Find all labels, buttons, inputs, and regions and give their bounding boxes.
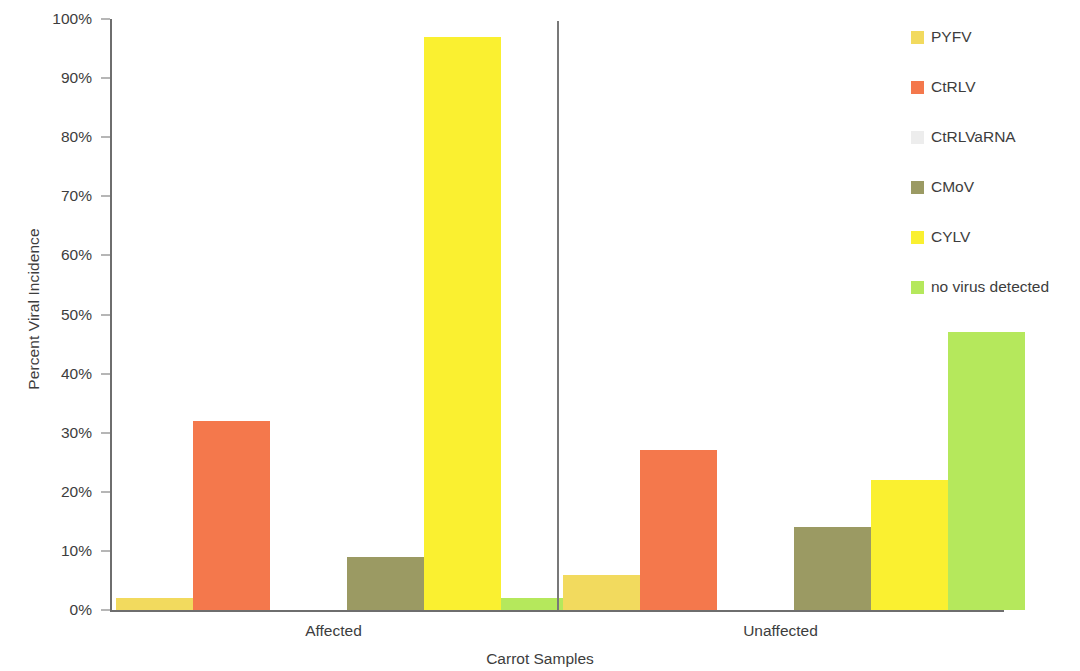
legend-swatch-icon (911, 81, 924, 94)
y-axis-tick-label: 10% (0, 542, 92, 560)
y-axis-tick-label: 0% (0, 601, 92, 619)
x-axis-title: Carrot Samples (0, 650, 1080, 668)
legend-label: CtRLVaRNA (931, 129, 1016, 145)
y-axis-tick-mark (101, 491, 110, 492)
legend-label: CMoV (931, 179, 974, 195)
bar (563, 575, 640, 610)
bar (424, 37, 501, 610)
y-axis-tick-label: 100% (0, 10, 92, 28)
legend-swatch-icon (911, 31, 924, 44)
bar (116, 598, 193, 610)
plot-area (110, 19, 1004, 610)
y-axis-tick-mark (101, 19, 110, 20)
bar (193, 421, 270, 610)
legend-item[interactable]: CtRLVaRNA (911, 128, 1016, 146)
group-divider (557, 21, 559, 610)
y-axis-tick-mark (101, 610, 110, 611)
legend-label: PYFV (931, 29, 971, 45)
y-axis-tick-label: 80% (0, 128, 92, 146)
bar-chart: Percent Viral Incidence 0%10%20%30%40%50… (0, 0, 1080, 671)
legend-label: CYLV (931, 229, 970, 245)
y-axis-tick-label: 60% (0, 246, 92, 264)
y-axis-tick-mark (101, 373, 110, 374)
x-axis-line (110, 610, 1004, 612)
y-axis-tick-label: 40% (0, 365, 92, 383)
y-axis-tick-label: 70% (0, 187, 92, 205)
legend-swatch-icon (911, 181, 924, 194)
legend-item[interactable]: no virus detected (911, 278, 1049, 296)
bar (347, 557, 424, 610)
y-axis-tick-mark (101, 78, 110, 79)
legend-swatch-icon (911, 231, 924, 244)
legend-item[interactable]: CMoV (911, 178, 974, 196)
y-axis-tick-mark (101, 314, 110, 315)
y-axis-tick-mark (101, 255, 110, 256)
y-axis-tick-label: 90% (0, 69, 92, 87)
y-axis-tick-label: 30% (0, 424, 92, 442)
bar (948, 332, 1025, 610)
legend-item[interactable]: CYLV (911, 228, 970, 246)
bar (640, 450, 717, 610)
y-axis-tick-mark (101, 550, 110, 551)
y-axis-tick-label: 50% (0, 306, 92, 324)
bar (871, 480, 948, 610)
y-axis-tick-mark (101, 137, 110, 138)
legend-label: no virus detected (931, 279, 1049, 295)
legend-swatch-icon (911, 281, 924, 294)
y-axis-tick-mark (101, 196, 110, 197)
legend-item[interactable]: PYFV (911, 28, 971, 46)
legend-swatch-icon (911, 131, 924, 144)
y-axis-tick-mark (101, 432, 110, 433)
x-axis-category-label: Affected (305, 622, 362, 640)
legend-item[interactable]: CtRLV (911, 78, 976, 96)
bar (794, 527, 871, 610)
y-axis-tick-label: 20% (0, 483, 92, 501)
y-axis-line (110, 19, 112, 610)
x-axis-category-label: Unaffected (743, 622, 818, 640)
legend-label: CtRLV (931, 79, 976, 95)
